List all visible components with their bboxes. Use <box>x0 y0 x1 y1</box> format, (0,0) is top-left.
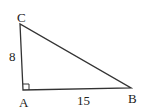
right-angle-marker <box>23 84 29 90</box>
side-label-ab: 15 <box>77 94 90 107</box>
vertex-label-a: A <box>19 96 28 109</box>
triangle-abc <box>20 24 131 90</box>
side-label-ac: 8 <box>9 50 16 63</box>
triangle-diagram: C A B 8 15 <box>0 0 142 110</box>
vertex-label-c: C <box>17 11 26 24</box>
vertex-label-b: B <box>128 92 137 105</box>
